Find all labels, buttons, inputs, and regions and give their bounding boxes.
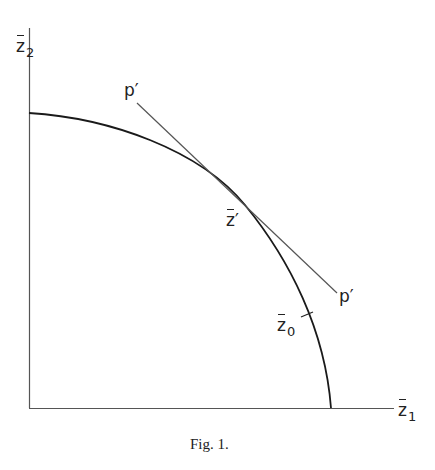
z0-tick xyxy=(301,312,313,317)
tangent-line xyxy=(137,103,337,293)
y-axis-label: z2 xyxy=(16,38,34,55)
diagram-canvas xyxy=(0,0,435,470)
frontier-curve xyxy=(29,113,331,408)
figure-caption: Fig. 1. xyxy=(190,436,229,453)
x-axis-label: z1 xyxy=(398,402,416,419)
z0-label: z0 xyxy=(277,317,295,334)
tangent-point-label: z′ xyxy=(226,212,239,229)
figure: z2 z1 p′ p′ z′ z0 Fig. 1. xyxy=(0,0,435,470)
p-prime-upper-label: p′ xyxy=(124,82,139,99)
p-prime-lower-label: p′ xyxy=(339,288,354,305)
